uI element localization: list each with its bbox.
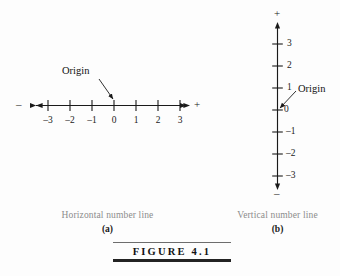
horizontal-positive-sign: + — [194, 99, 200, 110]
horizontal-tick-label-minus1: –1 — [84, 116, 100, 126]
vertical-number-line-graphic — [215, 0, 340, 200]
horizontal-number-line-graphic — [0, 0, 215, 200]
panel-horizontal-number-line: – + –3 –2 –1 0 1 2 3 Origin Horizontal n… — [0, 0, 215, 200]
panel-b-caption: Vertical number line (b) — [215, 210, 340, 235]
figure-number-label: FIGURE 4.1 — [113, 243, 231, 259]
horizontal-negative-sign: – — [16, 99, 22, 110]
horizontal-tick-label-minus3: –3 — [40, 116, 56, 126]
vertical-origin-label: Origin — [298, 84, 325, 95]
figure-page: – + –3 –2 –1 0 1 2 3 Origin Horizontal n… — [0, 0, 340, 276]
vertical-tick-label-2: 2 — [287, 61, 292, 71]
vertical-tick-label-1: 1 — [287, 83, 292, 93]
vertical-tick-label-3: 3 — [287, 39, 292, 49]
panel-a-caption: Horizontal number line (a) — [0, 210, 215, 235]
horizontal-tick-label-1: 1 — [128, 116, 144, 126]
horizontal-tick-label-3: 3 — [172, 116, 188, 126]
horizontal-tick-label-zero: 0 — [106, 116, 122, 126]
panel-a-caption-letter: (a) — [0, 224, 215, 235]
horizontal-tick-label-2: 2 — [150, 116, 166, 126]
figure-rule-bottom — [113, 259, 231, 262]
vertical-tick-label-zero: 0 — [284, 105, 289, 115]
panel-b-caption-text: Vertical number line — [215, 210, 340, 221]
panel-vertical-number-line: + – 3 2 1 0 –1 –2 –3 Origin Vertical num… — [215, 0, 340, 200]
vertical-tick-label-minus1: –1 — [286, 127, 296, 137]
horizontal-origin-label: Origin — [62, 66, 89, 77]
horizontal-tick-label-minus2: –2 — [62, 116, 78, 126]
panel-a-caption-text: Horizontal number line — [0, 210, 215, 221]
figure-number-block: FIGURE 4.1 — [113, 242, 231, 262]
vertical-tick-label-minus2: –2 — [286, 149, 296, 159]
panel-b-caption-letter: (b) — [215, 224, 340, 235]
vertical-positive-sign: + — [274, 8, 280, 19]
vertical-tick-label-minus3: –3 — [286, 171, 296, 181]
vertical-negative-sign: – — [274, 188, 280, 199]
